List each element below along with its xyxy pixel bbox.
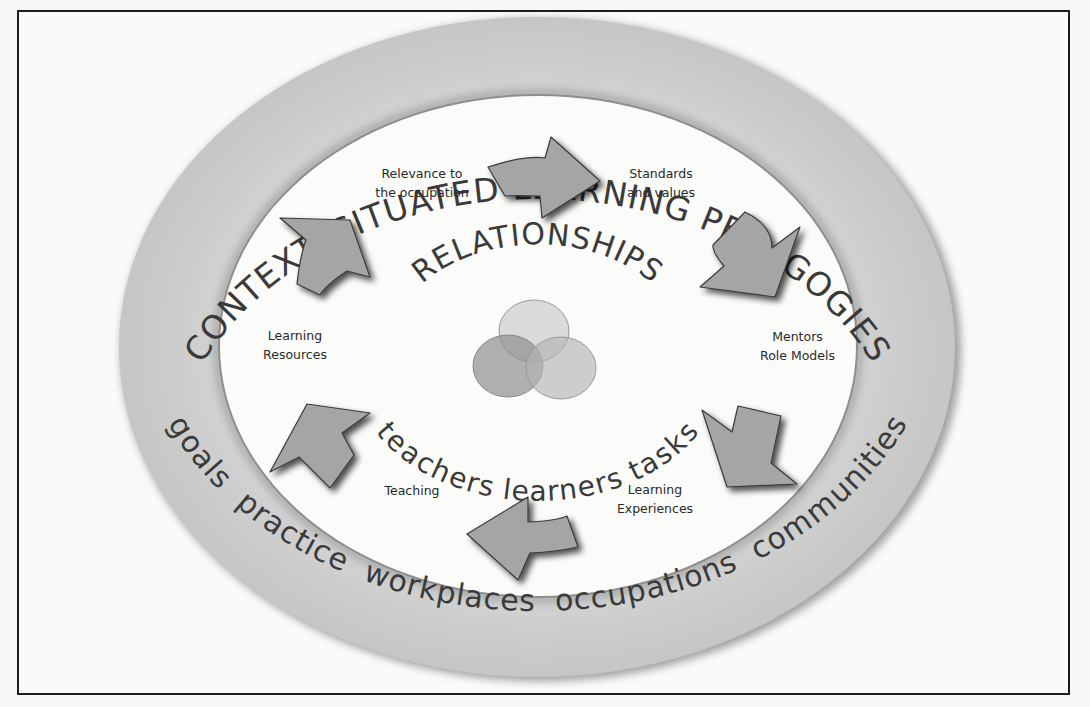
- label-line: Learning: [605, 480, 705, 499]
- venn-circle-right: [526, 337, 596, 399]
- label-line: Learning: [245, 326, 345, 345]
- label-mentors-role-models: Mentors Role Models: [740, 327, 855, 365]
- label-line: Experiences: [605, 499, 705, 518]
- label-line: the occupation: [352, 183, 492, 202]
- label-learning-experiences: Learning Experiences: [605, 480, 705, 518]
- label-line: Relevance to: [352, 164, 492, 183]
- label-line: Teaching: [372, 481, 452, 500]
- label-learning-resources: Learning Resources: [245, 326, 345, 364]
- label-line: Standards: [606, 164, 716, 183]
- situated-learning-diagram: CONTEXT: SITUATED LEARNING PEDAGOGIES go…: [0, 0, 1090, 707]
- label-line: and values: [606, 183, 716, 202]
- label-line: Role Models: [740, 346, 855, 365]
- label-standards-and-values: Standards and values: [606, 164, 716, 202]
- label-line: Resources: [245, 345, 345, 364]
- label-line: Mentors: [740, 327, 855, 346]
- label-relevance-to-occupation: Relevance to the occupation: [352, 164, 492, 202]
- label-teaching: Teaching: [372, 481, 452, 500]
